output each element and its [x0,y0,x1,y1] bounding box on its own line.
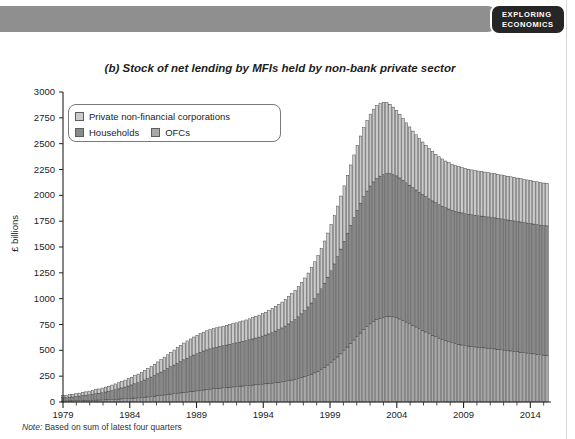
bar-segment [418,329,421,402]
legend-item-ofcs[interactable]: OFCs [151,127,190,138]
bar-segment [222,326,225,346]
bar-segment [493,174,496,218]
bar-segment [245,386,248,402]
bar-segment [189,339,192,357]
bar-segment [343,351,346,402]
bar-segment [281,328,284,382]
bar-segment [157,396,160,402]
bar-segment [438,205,441,339]
bar-segment [444,341,447,402]
bar-segment [536,182,539,225]
bar-segment [268,384,271,403]
bar-segment [529,353,532,402]
bar-segment [271,309,274,333]
bar-segment [379,176,382,318]
bar-segment [166,369,169,395]
legend-label-ofcs: OFCs [165,127,190,138]
y-tick-label: 0 [21,396,55,407]
legend-item-pnfc[interactable]: Private non-financial corporations [75,111,230,122]
bar-segment [251,385,254,402]
bar-segment [546,183,549,225]
bar-segment [533,354,536,402]
bar-segment [372,322,375,402]
bar-segment [310,374,313,402]
bar-segment [323,283,326,367]
bar-segment [117,383,120,389]
bar-segment [471,215,474,347]
bar-segment [284,299,287,326]
bar-segment [363,128,366,197]
bar-segment [503,176,506,220]
bar-segment [382,317,385,402]
bar-segment [516,352,519,402]
bar-segment [179,345,182,361]
bar-segment [264,335,267,384]
bar-segment [343,186,346,241]
bar-segment [356,145,359,210]
bar-segment [147,379,150,397]
bar-segment [235,387,238,402]
bar-segment [353,155,356,218]
bar-segment [493,349,496,402]
bar-segment [75,394,78,397]
bar-segment [271,333,274,384]
bar-segment [160,372,163,395]
x-tick-label: 1989 [177,409,217,420]
bar-segment [278,382,281,402]
bar-segment [487,348,490,402]
bar-segment [72,397,75,401]
bar-segment [287,381,290,402]
bar-segment [353,340,356,402]
bar-segment [513,221,516,351]
bar-segment [183,360,186,393]
legend-item-households[interactable]: Households [75,127,139,138]
bar-segment [173,365,176,394]
bar-segment [418,139,421,193]
bar-segment [160,360,163,373]
bar-segment [140,381,143,397]
bar-segment [542,226,545,355]
bar-segment [294,320,297,380]
bar-segment [448,209,451,342]
bar-segment [353,218,356,340]
bar-segment [317,294,320,371]
bar-segment [457,212,460,344]
bar-segment [464,169,467,214]
bar-segment [389,104,392,173]
bar-segment [523,223,526,353]
bar-segment [405,123,408,183]
bar-segment [212,348,215,389]
y-tick-label: 1750 [21,215,55,226]
bar-segment [526,180,529,223]
bar-segment [477,347,480,402]
bar-segment [153,375,156,396]
bar-segment [300,283,303,314]
bar-segment [350,225,353,343]
bar-segment [183,392,186,402]
bar-segment [160,395,163,402]
bar-segment [336,257,339,357]
bar-segment [238,342,241,386]
bar-segment [287,297,290,324]
bar-segment [130,398,133,402]
bar-segment [173,350,176,365]
legend-swatch-households [75,128,84,137]
bar-segment [104,387,107,392]
bar-segment [415,135,418,190]
bar-segment [415,327,418,402]
bar-segment [229,344,232,387]
bar-segment [176,348,179,364]
bar-segment [474,347,477,402]
bar-segment [520,222,523,352]
x-tick-label: 2004 [377,409,417,420]
bar-segment [369,324,372,402]
bar-segment [536,354,539,402]
y-tick-label: 1500 [21,241,55,252]
bar-segment [157,374,160,396]
bar-segment [435,337,438,402]
x-tick-label: 1984 [110,409,150,420]
bar-segment [238,386,241,402]
y-tick-label: 1000 [21,293,55,304]
bar-segment [497,218,500,349]
bar-segment [356,210,359,336]
